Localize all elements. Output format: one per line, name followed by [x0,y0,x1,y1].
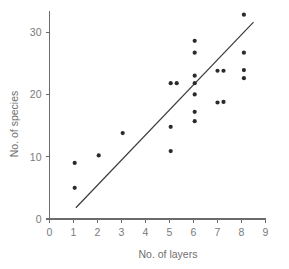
data-point [242,51,246,55]
data-point [242,13,246,17]
chart-canvas: 01234567890102030 No. of layers No. of s… [0,0,289,269]
x-tick-label: 8 [239,226,245,238]
data-point [215,69,219,73]
data-point [193,81,197,85]
y-tick-label: 0 [36,213,42,225]
scatter-plot-figure: 01234567890102030 No. of layers No. of s… [0,0,289,269]
data-point [193,110,197,114]
x-tick-label: 9 [263,226,269,238]
trend-line [76,22,254,208]
data-point [193,92,197,96]
data-point [169,81,173,85]
axes [50,11,266,219]
y-tick-label: 10 [30,151,42,163]
data-point [193,51,197,55]
data-point [242,68,246,72]
data-point [97,153,101,157]
data-point [193,119,197,123]
data-point [175,81,179,85]
data-point [193,74,197,78]
x-tick-label: 5 [167,226,173,238]
tick-marks [46,32,266,223]
x-tick-label: 3 [119,226,125,238]
data-point [73,186,77,190]
regression-line [76,22,254,208]
data-point [193,39,197,43]
x-tick-label: 0 [47,226,53,238]
x-tick-label: 1 [71,226,77,238]
x-tick-label: 2 [95,226,101,238]
data-point [169,125,173,129]
y-tick-label: 30 [30,26,42,38]
x-tick-label: 6 [191,226,197,238]
data-point [221,69,225,73]
y-tick-label: 20 [30,88,42,100]
tick-labels: 01234567890102030 [30,26,269,238]
x-axis-title: No. of layers [139,248,198,260]
data-point [73,161,77,165]
data-point [169,149,173,153]
data-point [242,76,246,80]
data-point [215,100,219,104]
x-tick-label: 7 [215,226,221,238]
data-point [121,131,125,135]
x-tick-label: 4 [143,226,149,238]
y-axis-title: No. of species [8,91,20,158]
data-points [73,13,246,190]
data-point [221,100,225,104]
